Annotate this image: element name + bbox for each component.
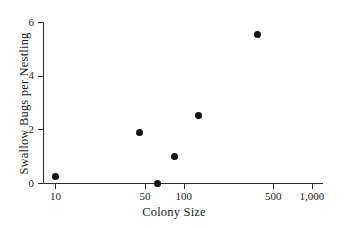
y-tick-mark [38,129,44,130]
data-point [136,129,143,136]
x-tick-label: 1,000 [299,191,324,202]
x-tick-mark [145,184,146,189]
x-tick-mark [55,184,56,189]
data-point [52,173,59,180]
x-tick-label: 100 [175,191,192,202]
x-tick-mark [312,184,313,189]
scatter-plot-figure: 0246 10501005001,000 Colony Size Swallow… [0,0,348,228]
data-point [154,180,161,187]
x-tick-mark [273,184,274,189]
x-tick-mark [184,184,185,189]
x-tick-label: 500 [265,191,282,202]
data-point [171,153,178,160]
x-axis-title: Colony Size [0,205,348,220]
y-tick-mark [38,22,44,23]
y-tick-mark [38,183,44,184]
data-point [254,31,261,38]
x-tick-label: 50 [140,191,151,202]
y-axis-line [43,22,44,184]
y-tick-mark [38,76,44,77]
data-point [195,112,202,119]
y-axis-title: Swallow Bugs per Nestling [17,14,32,194]
x-tick-label: 10 [50,191,61,202]
